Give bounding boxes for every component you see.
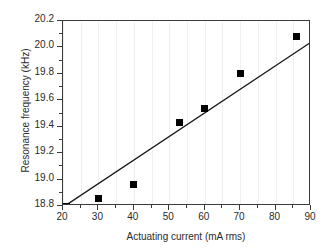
plot-area <box>62 20 310 205</box>
x-tick-minor <box>221 205 222 208</box>
x-tick-label: 80 <box>260 211 290 222</box>
x-tick-label: 90 <box>295 211 325 222</box>
y-tick-label: 19.2 <box>14 145 54 156</box>
x-tick-minor <box>257 205 258 208</box>
x-tick-major <box>204 205 205 210</box>
y-tick-label: 20.0 <box>14 39 54 50</box>
data-point <box>176 119 183 126</box>
x-tick-major <box>133 205 134 210</box>
y-tick-major <box>57 179 62 180</box>
y-tick-minor <box>59 60 62 61</box>
data-point <box>130 181 137 188</box>
y-tick-minor <box>59 33 62 34</box>
y-tick-label: 19.6 <box>14 92 54 103</box>
x-tick-minor <box>151 205 152 208</box>
y-tick-label: 20.2 <box>14 13 54 24</box>
x-tick-major <box>239 205 240 210</box>
fit-line <box>63 21 310 205</box>
x-tick-label: 30 <box>82 211 112 222</box>
y-tick-minor <box>59 113 62 114</box>
x-tick-major <box>275 205 276 210</box>
y-tick-major <box>57 99 62 100</box>
x-tick-label: 70 <box>224 211 254 222</box>
data-point <box>293 33 300 40</box>
data-point <box>95 195 102 202</box>
chart-figure: Resonance frequency (kHz) 20304050607080… <box>0 0 332 252</box>
x-tick-label: 60 <box>189 211 219 222</box>
y-tick-major <box>57 20 62 21</box>
y-tick-major <box>57 73 62 74</box>
y-tick-label: 19.0 <box>14 172 54 183</box>
y-tick-minor <box>59 165 62 166</box>
data-point <box>201 105 208 112</box>
y-tick-label: 19.8 <box>14 66 54 77</box>
x-tick-label: 40 <box>118 211 148 222</box>
x-tick-minor <box>80 205 81 208</box>
y-tick-minor <box>59 192 62 193</box>
x-axis-title: Actuating current (mA rms) <box>62 231 310 242</box>
x-tick-major <box>310 205 311 210</box>
data-point <box>63 203 70 206</box>
data-point <box>237 70 244 77</box>
y-tick-minor <box>59 139 62 140</box>
y-tick-major <box>57 126 62 127</box>
y-tick-major <box>57 205 62 206</box>
x-tick-label: 20 <box>47 211 77 222</box>
x-tick-label: 50 <box>153 211 183 222</box>
x-tick-minor <box>115 205 116 208</box>
x-tick-minor <box>186 205 187 208</box>
y-tick-major <box>57 152 62 153</box>
x-tick-major <box>168 205 169 210</box>
y-tick-major <box>57 46 62 47</box>
y-tick-label: 18.8 <box>14 198 54 209</box>
x-tick-minor <box>292 205 293 208</box>
x-tick-major <box>62 205 63 210</box>
x-tick-major <box>97 205 98 210</box>
y-tick-label: 19.4 <box>14 119 54 130</box>
y-tick-minor <box>59 86 62 87</box>
